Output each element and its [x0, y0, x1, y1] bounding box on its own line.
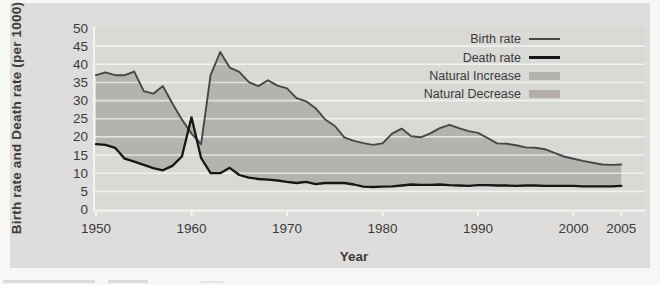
natural-decrease-fill-swatch: [529, 90, 560, 98]
y-tick-label: 45: [73, 39, 88, 54]
y-tick-label: 15: [73, 148, 88, 163]
y-tick-label: 5: [80, 184, 88, 199]
legend-label-death-rate: Death rate: [398, 51, 529, 65]
legend: Birth rate Death rate Natural Increase N…: [398, 30, 560, 104]
figure: 0510152025303540455019501960197019801990…: [0, 0, 660, 285]
legend-label-natural-decrease: Natural Decrease: [398, 87, 529, 101]
y-axis-title: Birth rate and Death rate (per 1000): [9, 0, 25, 236]
y-tick-label: 0: [80, 202, 88, 217]
natural-increase-fill-swatch: [529, 72, 560, 80]
x-tick-label: 1990: [463, 221, 493, 236]
legend-label-birth-rate: Birth rate: [398, 32, 529, 46]
y-tick-label: 25: [73, 111, 88, 126]
y-tick-label: 20: [73, 129, 88, 144]
legend-row-natural-increase: Natural Increase: [398, 67, 560, 85]
legend-row-birth-rate: Birth rate: [398, 30, 560, 48]
death-rate-line-swatch: [529, 56, 560, 59]
x-axis-title: Year: [294, 249, 414, 264]
x-tick-label: 1960: [176, 221, 206, 236]
cropped-caption-fragment: [0, 278, 660, 285]
x-tick-label: 2005: [606, 221, 636, 236]
y-tick-label: 30: [73, 93, 88, 108]
x-tick-label: 1950: [81, 221, 111, 236]
y-tick-label: 50: [73, 21, 88, 36]
y-tick-label: 10: [73, 166, 88, 181]
birth-rate-line-swatch: [529, 38, 560, 40]
x-tick-label: 2000: [558, 221, 588, 236]
y-tick-label: 40: [73, 57, 88, 72]
legend-label-natural-increase: Natural Increase: [398, 69, 529, 83]
legend-row-natural-decrease: Natural Decrease: [398, 85, 560, 103]
x-tick-label: 1970: [272, 221, 302, 236]
y-tick-label: 35: [73, 75, 88, 90]
x-tick-label: 1980: [367, 221, 397, 236]
chart-canvas: 0510152025303540455019501960197019801990…: [0, 0, 660, 285]
legend-row-death-rate: Death rate: [398, 48, 560, 66]
